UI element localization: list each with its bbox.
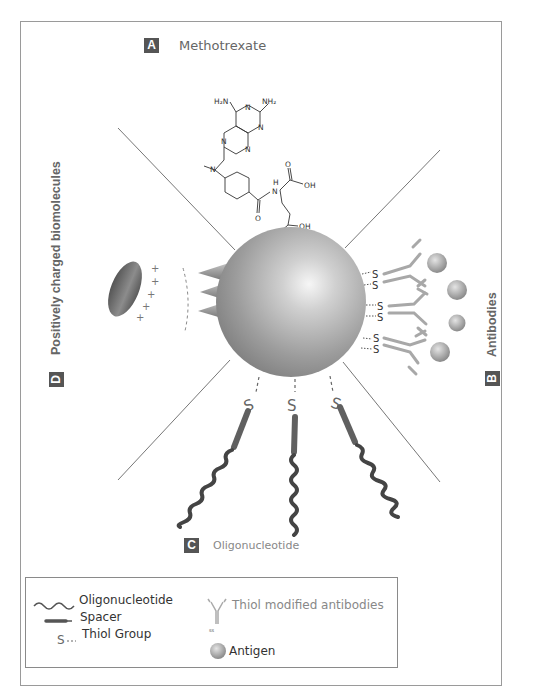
svg-text:+: + xyxy=(142,301,150,312)
antigen xyxy=(449,315,466,332)
methotrexate-atoms: H₂N NH₂ N N N N N N H O O OH O OH xyxy=(210,97,316,237)
label-positively-charged-biomolecules: Positively charged biomolecules xyxy=(49,161,63,355)
atom-nh2-left: H₂N xyxy=(214,97,228,106)
svg-text:S: S xyxy=(377,301,383,312)
atom-n: N xyxy=(245,103,251,112)
legend-label-thiol-modified-antibodies: Thiol modified antibodies xyxy=(232,598,384,612)
svg-text:S: S xyxy=(377,312,383,323)
atom-oh: OH xyxy=(304,181,316,190)
atom-n: N xyxy=(245,145,251,154)
oligonucleotide-group: S S S xyxy=(179,376,398,535)
atom-n: N xyxy=(258,123,264,132)
atom-n: N xyxy=(272,187,278,196)
svg-text:S: S xyxy=(372,280,378,291)
badge-d: D xyxy=(49,372,64,387)
svg-text:+: + xyxy=(151,263,159,274)
svg-text:S: S xyxy=(287,397,297,415)
atom-n: N xyxy=(210,165,216,174)
legend-label-spacer: Spacer xyxy=(80,610,122,624)
svg-text:+: + xyxy=(151,276,159,287)
svg-text:S: S xyxy=(373,333,379,344)
badge-c: C xyxy=(184,538,199,553)
legend-box: Oligonucleotide Spacer Thiol Group Thiol… xyxy=(25,577,398,668)
antigen xyxy=(447,280,467,300)
antibody-group: S S S S S S xyxy=(361,240,467,374)
atom-o: O xyxy=(285,160,291,169)
legend-label-thiol-group: Thiol Group xyxy=(82,627,151,641)
positive-biomolecule: + + + + + xyxy=(101,257,188,331)
badge-b: B xyxy=(485,371,500,386)
legend-label-antigen: Antigen xyxy=(229,644,275,658)
svg-text:+: + xyxy=(136,312,144,323)
atom-h: H xyxy=(273,178,279,187)
svg-text:S: S xyxy=(372,269,378,280)
label-antibodies: Antibodies xyxy=(485,292,499,357)
svg-text:S: S xyxy=(373,344,379,355)
nanoparticle-sphere xyxy=(216,227,366,377)
badge-a: A xyxy=(144,38,159,53)
antigen xyxy=(427,253,447,273)
legend-label-oligonucleotide: Oligonucleotide xyxy=(79,593,173,607)
atom-n: N xyxy=(221,137,227,146)
atom-nh2-right: NH₂ xyxy=(262,97,276,106)
antigen xyxy=(430,342,450,362)
svg-text:+: + xyxy=(147,289,155,300)
atom-o: O xyxy=(255,214,261,223)
label-methotrexate: Methotrexate xyxy=(179,38,266,53)
label-oligonucleotide: Oligonucleotide xyxy=(213,539,299,552)
